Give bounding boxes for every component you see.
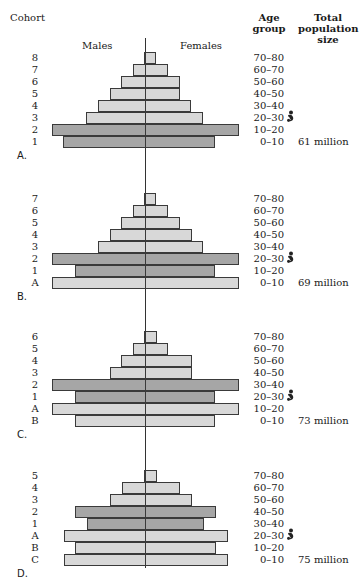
- cohort-header: Cohort: [10, 12, 45, 23]
- cohort-label: 1: [30, 391, 40, 403]
- cohort-label: C: [30, 554, 40, 566]
- male-bar: [75, 391, 146, 403]
- age-group-label: 70–80: [250, 331, 284, 343]
- baby-icon: [285, 108, 295, 121]
- female-bar: [145, 554, 228, 566]
- cohort-label: B: [30, 542, 40, 554]
- female-bar: [145, 277, 239, 289]
- age-group-label: 0–10: [250, 136, 284, 148]
- cohort-label: 2: [30, 506, 40, 518]
- age-group-label: 40–50: [250, 229, 284, 241]
- cohort-label: 4: [30, 229, 40, 241]
- total-population-value: 73 million: [298, 415, 349, 427]
- age-group-label: 10–20: [250, 265, 284, 277]
- age-group-label: 0–10: [250, 415, 284, 427]
- cohort-label: 3: [30, 112, 40, 124]
- age-group-label: 20–30: [250, 391, 284, 403]
- female-bar: [145, 415, 215, 427]
- panel-label: B.: [17, 291, 27, 302]
- female-bar: [145, 470, 157, 482]
- female-bar: [145, 518, 204, 530]
- age-group-label: 0–10: [250, 554, 284, 566]
- age-group-label: 60–70: [250, 205, 284, 217]
- male-bar: [121, 355, 146, 367]
- female-bar: [145, 205, 168, 217]
- cohort-label: 4: [30, 355, 40, 367]
- female-bar: [145, 355, 192, 367]
- male-bar: [75, 415, 146, 427]
- female-bar: [145, 482, 180, 494]
- cohort-label: 5: [30, 217, 40, 229]
- cohort-label: 1: [30, 265, 40, 277]
- male-bar: [122, 482, 146, 494]
- male-bar: [121, 76, 146, 88]
- cohort-label: 8: [30, 52, 40, 64]
- population-pyramid-figure: Cohort Males Females Age group Total pop…: [0, 0, 364, 587]
- cohort-label: 4: [30, 482, 40, 494]
- female-bar: [145, 265, 215, 277]
- cohort-label: 5: [30, 470, 40, 482]
- age-group-label: 40–50: [250, 88, 284, 100]
- male-bar: [98, 241, 146, 253]
- age-group-label: 30–40: [250, 379, 284, 391]
- age-group-label: 30–40: [250, 100, 284, 112]
- baby-icon: [285, 526, 295, 539]
- female-bar: [145, 124, 239, 136]
- male-bar: [75, 265, 146, 277]
- total-population-header: Total population size: [298, 12, 358, 45]
- cohort-label: 1: [30, 518, 40, 530]
- age-group-label: 30–40: [250, 241, 284, 253]
- males-header: Males: [82, 40, 112, 51]
- female-bar: [145, 331, 157, 343]
- panel-label: D.: [17, 568, 28, 579]
- age-group-header: Age group: [252, 12, 286, 34]
- cohort-label: 5: [30, 88, 40, 100]
- age-group-label: 30–40: [250, 518, 284, 530]
- age-group-label: 60–70: [250, 343, 284, 355]
- age-group-label: 40–50: [250, 506, 284, 518]
- age-group-label: 50–60: [250, 217, 284, 229]
- female-bar: [145, 241, 203, 253]
- baby-icon: [285, 249, 295, 262]
- male-bar: [75, 506, 146, 518]
- male-bar: [52, 403, 146, 415]
- female-bar: [145, 229, 192, 241]
- cohort-label: 6: [30, 331, 40, 343]
- female-bar: [145, 506, 216, 518]
- male-bar: [86, 112, 146, 124]
- female-bar: [145, 379, 239, 391]
- total-population-value: 69 million: [298, 277, 349, 289]
- age-group-label: 70–80: [250, 193, 284, 205]
- male-bar: [110, 494, 146, 506]
- age-group-label: 40–50: [250, 367, 284, 379]
- female-bar: [145, 217, 180, 229]
- male-bar: [110, 88, 146, 100]
- panel-label: A.: [17, 150, 27, 161]
- females-header: Females: [180, 40, 222, 51]
- male-bar: [87, 518, 146, 530]
- male-bar: [64, 554, 146, 566]
- total-population-value: 61 million: [298, 136, 349, 148]
- cohort-label: A: [30, 277, 40, 289]
- age-group-label: 70–80: [250, 52, 284, 64]
- panel-label: C.: [17, 429, 27, 440]
- male-bar: [52, 277, 146, 289]
- female-bar: [145, 530, 228, 542]
- male-bar: [52, 124, 146, 136]
- cohort-label: 3: [30, 367, 40, 379]
- male-bar: [121, 217, 146, 229]
- cohort-label: 4: [30, 100, 40, 112]
- cohort-label: 7: [30, 193, 40, 205]
- cohort-label: 3: [30, 241, 40, 253]
- male-bar: [64, 530, 146, 542]
- total-population-value: 75 million: [298, 554, 349, 566]
- cohort-label: 2: [30, 124, 40, 136]
- cohort-label: B: [30, 415, 40, 427]
- age-group-label: 50–60: [250, 355, 284, 367]
- age-group-label: 10–20: [250, 124, 284, 136]
- male-bar: [63, 136, 146, 148]
- age-group-label: 50–60: [250, 76, 284, 88]
- female-bar: [145, 112, 203, 124]
- age-group-label: 60–70: [250, 482, 284, 494]
- age-group-label: 10–20: [250, 542, 284, 554]
